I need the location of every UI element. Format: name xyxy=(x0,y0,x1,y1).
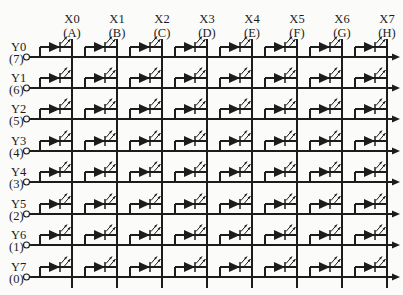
led-triangle xyxy=(49,262,60,272)
led-symbol-Y7-X5 xyxy=(265,257,297,278)
led-triangle xyxy=(94,136,105,146)
column-X1: X1(B) xyxy=(109,12,126,288)
led-triangle xyxy=(274,73,285,83)
row-line-arrowhead xyxy=(392,85,400,92)
led-triangle xyxy=(49,136,60,146)
led-symbol-Y5-X4 xyxy=(220,194,252,215)
led-symbol-Y0-X5 xyxy=(265,37,297,58)
row-line-arrowhead xyxy=(392,54,400,61)
row-terminal-circle xyxy=(24,179,30,185)
led-triangle xyxy=(139,136,150,146)
led-matrix-schematic: X0(A)X1(B)X2(C)X3(D)X4(E)X5(F)X6(G)X7(H)… xyxy=(0,0,403,295)
led-symbol-Y5-X2 xyxy=(130,194,162,215)
row-terminal-circle xyxy=(24,274,30,280)
led-triangle xyxy=(274,42,285,52)
led-triangle xyxy=(94,199,105,209)
column-X5: X5(F) xyxy=(289,12,304,288)
led-triangle xyxy=(184,136,195,146)
column-label: X2 xyxy=(154,12,169,26)
column-X4: X4(E) xyxy=(244,12,260,288)
led-symbol-Y6-X4 xyxy=(220,225,252,246)
led-triangle xyxy=(364,262,375,272)
row-Y2: Y2(5) xyxy=(9,102,400,129)
led-symbol-Y0-X6 xyxy=(310,37,342,58)
led-symbol-Y7-X7 xyxy=(355,257,387,278)
led-triangle xyxy=(274,262,285,272)
led-triangle xyxy=(49,167,60,177)
led-symbol-Y7-X3 xyxy=(175,257,207,278)
led-triangle xyxy=(319,230,330,240)
column-label: X1 xyxy=(109,12,124,26)
led-triangle xyxy=(94,42,105,52)
column-label: X0 xyxy=(64,12,79,26)
row-pin-label: (7) xyxy=(9,52,24,66)
led-triangle xyxy=(319,104,330,114)
led-symbol-Y3-X4 xyxy=(220,131,252,152)
led-symbol-Y0-X1 xyxy=(85,37,117,58)
led-triangle xyxy=(49,42,60,52)
led-symbol-Y0-X7 xyxy=(355,37,387,58)
led-symbol-Y1-X2 xyxy=(130,68,162,89)
led-triangle xyxy=(139,73,150,83)
led-triangle xyxy=(274,167,285,177)
led-triangle xyxy=(229,104,240,114)
column-X2: X2(C) xyxy=(154,12,171,288)
led-triangle xyxy=(274,199,285,209)
led-symbol-Y5-X5 xyxy=(265,194,297,215)
schematic-svg: X0(A)X1(B)X2(C)X3(D)X4(E)X5(F)X6(G)X7(H)… xyxy=(0,0,403,295)
led-symbol-Y4-X7 xyxy=(355,162,387,183)
led-triangle xyxy=(364,104,375,114)
column-label: X5 xyxy=(289,12,304,26)
column-label: X7 xyxy=(379,12,394,26)
led-triangle xyxy=(274,136,285,146)
led-symbol-Y4-X6 xyxy=(310,162,342,183)
led-triangle xyxy=(364,230,375,240)
led-triangle xyxy=(229,262,240,272)
column-label: X3 xyxy=(199,12,214,26)
led-triangle xyxy=(319,199,330,209)
led-symbol-Y5-X6 xyxy=(310,194,342,215)
row-line-arrowhead xyxy=(392,274,400,281)
led-triangle xyxy=(139,104,150,114)
led-symbol-Y1-X6 xyxy=(310,68,342,89)
led-triangle xyxy=(184,262,195,272)
led-triangle xyxy=(364,136,375,146)
led-triangle xyxy=(319,262,330,272)
led-triangle xyxy=(139,167,150,177)
led-triangle xyxy=(274,104,285,114)
led-triangle xyxy=(139,42,150,52)
row-pin-label: (6) xyxy=(9,83,24,97)
led-triangle xyxy=(94,73,105,83)
row-terminal-circle xyxy=(24,116,30,122)
led-symbol-Y1-X5 xyxy=(265,68,297,89)
led-triangle xyxy=(364,167,375,177)
led-symbol-Y1-X0 xyxy=(40,68,72,89)
led-triangle xyxy=(319,42,330,52)
led-triangle xyxy=(274,230,285,240)
led-triangle xyxy=(94,104,105,114)
column-X3: X3(D) xyxy=(198,12,215,288)
led-symbol-Y6-X7 xyxy=(355,225,387,246)
row-Y4: Y4(3) xyxy=(9,165,400,192)
row-terminal-circle xyxy=(24,242,30,248)
led-symbol-Y2-X4 xyxy=(220,99,252,120)
led-triangle xyxy=(49,104,60,114)
row-pin-label: (3) xyxy=(9,177,24,191)
led-triangle xyxy=(49,230,60,240)
led-symbol-Y4-X0 xyxy=(40,162,72,183)
led-triangle xyxy=(364,199,375,209)
column-label: X6 xyxy=(334,12,349,26)
led-symbol-Y6-X2 xyxy=(130,225,162,246)
led-triangle xyxy=(319,136,330,146)
row-Y6: Y6(1) xyxy=(9,228,400,255)
led-triangle xyxy=(229,199,240,209)
led-symbol-Y0-X0 xyxy=(40,37,72,58)
row-pin-label: (5) xyxy=(9,114,24,128)
led-symbol-Y0-X4 xyxy=(220,37,252,58)
row-Y0: Y0(7) xyxy=(9,40,400,67)
led-symbol-Y4-X3 xyxy=(175,162,207,183)
led-triangle xyxy=(184,230,195,240)
row-line-arrowhead xyxy=(392,116,400,123)
led-triangle xyxy=(49,199,60,209)
row-pin-label: (1) xyxy=(9,240,24,254)
